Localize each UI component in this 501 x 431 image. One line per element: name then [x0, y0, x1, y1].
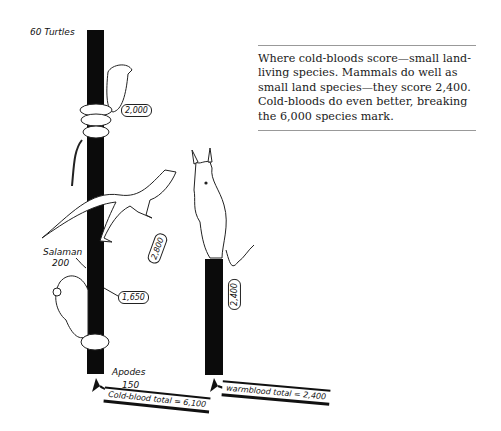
snake-count-tag: 2,000 — [121, 104, 152, 117]
turtles-label: 60 Turtles — [30, 27, 75, 37]
frog-count-tag: 1,650 — [118, 291, 149, 304]
mammal-count-tag: 2,400 — [228, 279, 241, 310]
apodes-name-label: Apodes — [112, 367, 145, 377]
caption-text: Where cold-bloods score—small land-livin… — [258, 45, 476, 131]
salaman-value-label: 200 — [52, 258, 69, 268]
salaman-name-label: Salaman — [43, 247, 82, 257]
